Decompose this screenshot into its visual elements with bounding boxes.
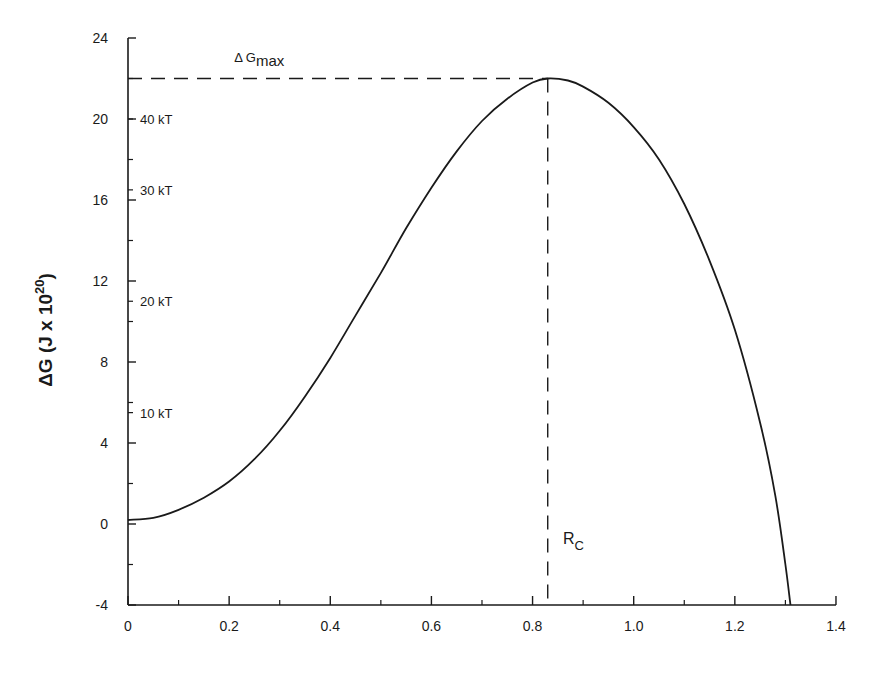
x-tick-label: 0.2 xyxy=(219,618,239,634)
kt-label: 10 kT xyxy=(140,406,173,421)
tick-labels: -40481216202400.20.40.60.81.01.21.4 xyxy=(92,30,845,634)
kt-label: 40 kT xyxy=(140,112,173,127)
x-tick-label: 0.8 xyxy=(523,618,543,634)
y-tick-label: -4 xyxy=(96,597,109,613)
delta-g-curve xyxy=(128,78,791,605)
x-tick-label: 0 xyxy=(124,618,132,634)
x-tick-label: 1.2 xyxy=(725,618,745,634)
y-tick-label: 24 xyxy=(92,30,108,46)
y-tick-label: 16 xyxy=(92,192,108,208)
rc-annotation: RC xyxy=(563,530,584,553)
x-tick-label: 0.4 xyxy=(321,618,341,634)
x-tick-label: 1.4 xyxy=(826,618,846,634)
reference-lines xyxy=(128,79,548,606)
axes xyxy=(128,38,836,605)
x-tick-label: 0.6 xyxy=(422,618,442,634)
y-tick-label: 4 xyxy=(100,435,108,451)
y-axis-label: ΔG (J x 1020) xyxy=(32,273,56,387)
y-tick-label: 12 xyxy=(92,273,108,289)
kt-label: 30 kT xyxy=(140,183,173,198)
tick-marks xyxy=(128,38,836,605)
annotations: Δ GmaxRC xyxy=(234,50,584,553)
delta-g-chart: -40481216202400.20.40.60.81.01.21.4 10 k… xyxy=(0,0,871,679)
x-tick-label: 1.0 xyxy=(624,618,644,634)
delta-g-max-annotation: Δ Gmax xyxy=(234,50,285,69)
y-tick-label: 0 xyxy=(100,516,108,532)
secondary-kt-labels: 10 kT20 kT30 kT40 kT xyxy=(128,112,173,421)
y-tick-label: 8 xyxy=(100,354,108,370)
y-tick-label: 20 xyxy=(92,111,108,127)
kt-label: 20 kT xyxy=(140,294,173,309)
